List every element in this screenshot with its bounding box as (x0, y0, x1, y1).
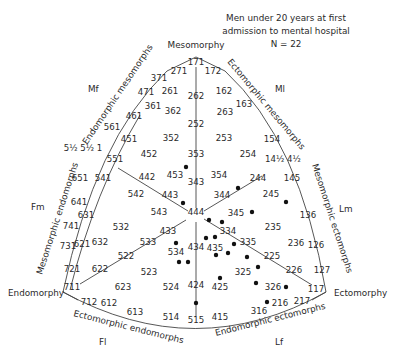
data-point (204, 236, 208, 240)
data-point (194, 301, 198, 305)
somatotype-label: 236 (288, 238, 304, 248)
somatotype-label: 216 (272, 298, 288, 308)
data-point (207, 218, 211, 222)
somatotype-label: 534 (168, 247, 184, 257)
somatotype-label: 711 (64, 282, 80, 292)
somatotype-label: 325 (235, 267, 251, 277)
sector-Lf: Lf (275, 337, 284, 347)
data-point (213, 235, 217, 239)
somatotype-label: 514 (163, 312, 179, 322)
somatotype-label: 425 (212, 282, 228, 292)
somatotype-label: 613 (127, 307, 143, 317)
somatotype-label: 532 (113, 222, 129, 232)
somatotype-label: 523 (141, 267, 157, 277)
label-mesomorphy: Mesomorphy (168, 40, 225, 50)
somatotype-label: 415 (212, 312, 228, 322)
somatotype-label: 641 (71, 197, 87, 207)
somatotype-label: 271 (171, 66, 187, 76)
somatotype-label: 253 (216, 133, 232, 143)
somatotype-label: 353 (188, 149, 204, 159)
somatotype-label: 442 (139, 172, 155, 182)
somatotype-label: 245 (263, 189, 279, 199)
somatotype-label: 316 (251, 306, 267, 316)
somatotype-label: 561 (104, 122, 120, 132)
data-point (232, 242, 236, 246)
somatotype-label: 126 (308, 240, 324, 250)
somatotype-label: 172 (205, 66, 221, 76)
somatotype-label: 461 (126, 111, 142, 121)
data-point (220, 220, 224, 224)
data-point (218, 276, 222, 280)
data-point (186, 260, 190, 264)
somatotype-chart: Men under 20 years at first admission to… (0, 0, 399, 359)
somatotype-label: 361 (145, 101, 161, 111)
data-point (236, 186, 240, 190)
somatotype-label: 254 (240, 149, 256, 159)
somatotype-label: 533 (140, 237, 156, 247)
data-point (184, 165, 188, 169)
somatotype-label: 335 (240, 237, 256, 247)
somatotype-label: 524 (163, 282, 179, 292)
somatotype-label: 5½ 5½ 1 (64, 143, 103, 153)
somatotype-label: 452 (141, 149, 157, 159)
somatotype-label: 261 (162, 86, 178, 96)
somatotype-label: 344 (214, 190, 230, 200)
somatotype-label: 434 (188, 242, 204, 252)
somatotype-label: 522 (118, 251, 134, 261)
sector-Mf: Mf (88, 84, 100, 94)
sector-Ml: Ml (275, 84, 285, 94)
somatotype-label: 217 (294, 296, 310, 306)
somatotype-label: 171 (188, 57, 204, 67)
data-point (254, 281, 258, 285)
somatotype-label: 145 (284, 173, 300, 183)
title-line-1: Men under 20 years at first (226, 13, 346, 23)
somatotype-label: 622 (92, 264, 108, 274)
somatotype-label: 343 (188, 177, 204, 187)
data-point (250, 210, 254, 214)
somatotype-label: 632 (92, 237, 108, 247)
label-ectomorphy: Ectomorphy (334, 288, 387, 298)
data-point (181, 201, 185, 205)
data-point (284, 200, 288, 204)
title-line-2: admission to mental hospital (222, 26, 349, 36)
somatotype-label: 621 (74, 239, 90, 249)
somatotype-label: 451 (121, 134, 137, 144)
arc-endomorphic-ectomorphs: Endomorphic ectomorphs (214, 301, 327, 338)
somatotype-label: 362 (165, 106, 181, 116)
somatotype-label: 252 (188, 119, 204, 129)
somatotype-label: 721 (64, 264, 80, 274)
data-point (256, 265, 260, 269)
somatotype-label: 127 (314, 265, 330, 275)
somatotype-label: 543 (151, 207, 167, 217)
somatotype-label: 354 (211, 170, 227, 180)
somatotype-label: 741 (63, 221, 79, 231)
data-point (226, 251, 230, 255)
somatotype-label: 136 (300, 210, 316, 220)
sector-Lm: Lm (339, 204, 352, 214)
somatotype-label: 235 (265, 222, 281, 232)
chart-title: Men under 20 years at first admission to… (222, 13, 349, 49)
sector-Fm: Fm (31, 202, 45, 212)
somatotype-label: 433 (160, 226, 176, 236)
somatotype-label: 612 (101, 298, 117, 308)
somatotype-label: 424 (188, 280, 204, 290)
data-point (177, 260, 181, 264)
somatotype-label: 435 (207, 243, 223, 253)
somatotype-label: 352 (163, 133, 179, 143)
somatotype-label: 162 (216, 86, 232, 96)
data-point (265, 300, 269, 304)
data-point (174, 241, 178, 245)
data-point (284, 285, 288, 289)
somatotype-label: 712 (81, 297, 97, 307)
somatotype-label: 551 (107, 154, 123, 164)
somatotype-label: 154 (264, 134, 280, 144)
somatotype-label: 623 (115, 282, 131, 292)
somatotype-label: 326 (265, 282, 281, 292)
somatotype-label: 453 (167, 170, 183, 180)
somatotype-label: 244 (250, 173, 266, 183)
somatotype-label: 541 (95, 173, 111, 183)
somatotype-label: 542 (128, 189, 144, 199)
somatotype-label: 651 (72, 173, 88, 183)
somatotype-label: 471 (138, 87, 154, 97)
somatotype-label: 14½ 4½ (265, 154, 301, 164)
